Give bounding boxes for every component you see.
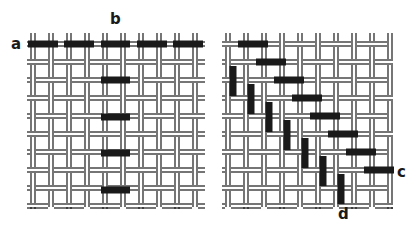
warp-float-highlight [320,156,327,186]
right-weave-panel: cd [222,33,406,223]
weft-float-highlight [346,149,376,156]
label-b: b [110,10,121,28]
weft-float-highlight [101,77,130,84]
weft-float-highlight [310,113,340,120]
weft-float-highlight [64,41,94,48]
weft-float-highlight [364,167,394,174]
weft-float-highlight [101,187,130,194]
warp-float-highlight [302,138,309,168]
warp-float-highlight [248,84,255,114]
weft-float-highlight [28,41,58,48]
warp-float-highlight [266,102,273,132]
weft-float-highlight [173,41,203,48]
label-c: c [397,163,406,181]
weft-float-highlight [256,59,286,66]
weft-float-highlight [238,41,268,48]
weft-float-highlight [274,77,304,84]
warp-float-highlight [338,174,345,204]
weft-float-highlight [292,95,322,102]
label-a: a [11,35,21,53]
label-d: d [338,205,349,223]
weft-float-highlight [101,150,130,157]
weft-float-highlight [328,131,358,138]
warp-float-highlight [230,66,237,96]
weft-float-highlight [137,41,167,48]
weft-float-highlight [101,41,130,48]
warp-float-highlight [284,120,291,150]
weave-diagram: ab cd [0,0,417,231]
left-weave-panel: ab [11,10,205,209]
weft-float-highlight [101,114,130,121]
